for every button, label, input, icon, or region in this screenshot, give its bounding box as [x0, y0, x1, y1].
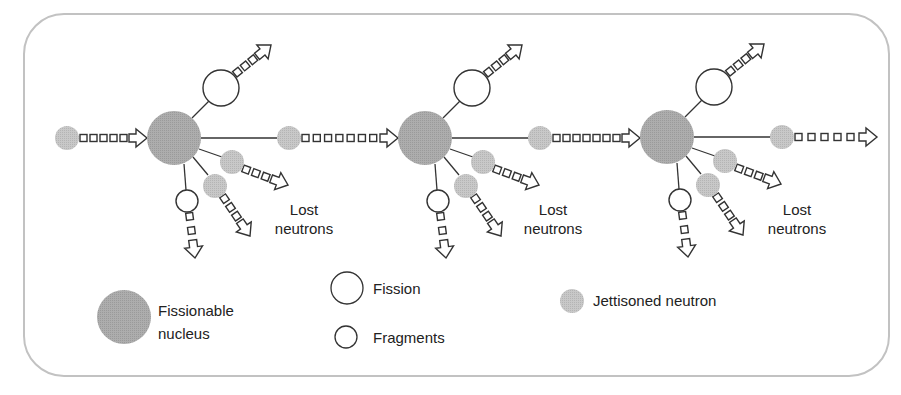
fission-cluster-2: [398, 38, 640, 259]
propagating-neutron-arrow-1: [302, 129, 398, 147]
fissionable-nucleus: [398, 111, 452, 165]
incoming-neutron: [55, 126, 79, 150]
lost-neutron-arrow-b-2: [466, 191, 508, 241]
lost-neutron-arrow-a-1: [240, 160, 291, 194]
legend-fission-icon: [331, 272, 363, 304]
legend-nucleus-icon: [97, 290, 151, 344]
upper-fragment-arrow-1: [229, 38, 277, 81]
legend-nucleus-label-line2: nucleus: [158, 324, 210, 343]
lost-neutron: [220, 150, 244, 174]
lost-neutron-arrow-a-3: [733, 159, 784, 193]
fission-fragment-large: [203, 70, 239, 106]
legend-neutron-icon: [560, 289, 584, 313]
chain-reaction: [55, 37, 877, 259]
lost-neutron-arrow-b-1: [215, 191, 257, 241]
lost-neutron: [713, 149, 737, 173]
fission-chain-diagram: [0, 0, 901, 395]
fission-cluster-1: [147, 38, 398, 259]
fission-cluster-3: [640, 37, 877, 258]
lost-neutrons-label: neutrons: [768, 219, 826, 238]
lost-neutrons-label: neutrons: [524, 219, 582, 238]
frame-border: [24, 14, 889, 376]
legend-fission-label: Fission: [373, 279, 421, 298]
fission-fragment-large: [696, 69, 732, 105]
lost-neutron-arrow-b-3: [708, 190, 750, 240]
lower-fragment-arrow-2: [431, 212, 455, 259]
incoming-neutron-arrow: [80, 129, 147, 147]
lost-neutron-arrow-a-2: [491, 160, 542, 194]
legend-fragments-label: Fragments: [373, 328, 445, 347]
legend-nucleus-label-line1: Fissionable: [158, 301, 234, 320]
upper-fragment-arrow-2: [480, 38, 528, 81]
fissionable-nucleus: [147, 111, 201, 165]
lost-neutron: [471, 150, 495, 174]
lost-neutrons-label: neutrons: [275, 219, 333, 238]
legend-fragments-icon: [335, 326, 357, 348]
propagating-neutron: [277, 126, 301, 150]
legend-neutron-label: Jettisoned neutron: [593, 291, 716, 310]
lost-neutrons-label: Lost: [290, 200, 318, 219]
propagating-neutron-arrow-3: [795, 128, 877, 146]
upper-fragment-arrow-3: [722, 37, 770, 80]
lost-neutrons-label: Lost: [783, 200, 811, 219]
lost-neutron: [454, 174, 478, 198]
fission-fragment-small: [669, 189, 691, 211]
propagating-neutron: [528, 126, 552, 150]
lower-fragment-arrow-3: [673, 211, 697, 258]
fission-fragment-small: [176, 190, 198, 212]
propagating-neutron-arrow-2: [553, 129, 640, 147]
lost-neutron: [203, 174, 227, 198]
lost-neutrons-label: Lost: [539, 200, 567, 219]
fission-fragment-large: [454, 70, 490, 106]
lost-neutron: [696, 173, 720, 197]
lower-fragment-arrow-1: [180, 212, 204, 259]
propagating-neutron: [770, 125, 794, 149]
fissionable-nucleus: [640, 110, 694, 164]
fission-fragment-small: [427, 190, 449, 212]
